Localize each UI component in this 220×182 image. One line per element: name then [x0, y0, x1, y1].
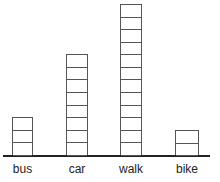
bar-unit-block — [67, 106, 87, 119]
bar-unit-block — [176, 144, 198, 157]
bar-unit-block — [67, 118, 87, 131]
category-label-bike: bike — [167, 162, 207, 176]
bar-unit-block — [121, 80, 141, 93]
bar-unit-block — [121, 55, 141, 68]
bar-unit-block — [13, 131, 32, 144]
bar-unit-block — [67, 131, 87, 144]
bar-unit-block — [121, 118, 141, 131]
bar-unit-block — [67, 143, 87, 156]
bar-unit-block — [67, 93, 87, 106]
pictograph-bar-chart: buscarwalkbike — [0, 0, 220, 182]
bar-unit-block — [67, 80, 87, 93]
bar-bus — [12, 117, 33, 155]
bar-unit-block — [121, 18, 141, 31]
bar-unit-block — [13, 143, 32, 156]
bar-unit-block — [121, 68, 141, 81]
bar-unit-block — [176, 131, 198, 144]
category-label-bus: bus — [3, 162, 43, 176]
bar-unit-block — [121, 30, 141, 43]
bar-unit-block — [121, 131, 141, 144]
bar-car — [66, 54, 88, 155]
bar-unit-block — [121, 43, 141, 56]
bar-unit-block — [13, 118, 32, 131]
category-label-car: car — [57, 162, 97, 176]
bar-unit-block — [67, 55, 87, 68]
bar-unit-block — [121, 93, 141, 106]
bar-walk — [120, 4, 142, 155]
bar-unit-block — [121, 5, 141, 18]
category-label-walk: walk — [111, 162, 151, 176]
bar-unit-block — [121, 143, 141, 156]
bar-unit-block — [121, 106, 141, 119]
bar-unit-block — [67, 68, 87, 81]
bar-bike — [175, 130, 199, 155]
